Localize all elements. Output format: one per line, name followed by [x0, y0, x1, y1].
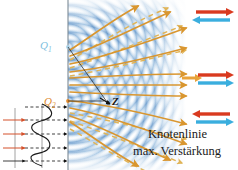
z-point — [106, 101, 109, 104]
label-q1: Q1 — [40, 40, 52, 54]
label-q2-text: Q — [44, 95, 52, 107]
legend-top-cyan-head — [192, 16, 200, 24]
label-max-verstaerkung: max. Verstärkung — [133, 145, 221, 158]
legend-bottom-cyan-head — [226, 118, 234, 126]
label-q1-text: Q — [40, 39, 48, 51]
legend-top-group — [192, 8, 234, 24]
legend-middle-group — [182, 71, 234, 87]
legend-bottom-red-head — [192, 110, 200, 118]
figure-canvas: Q1 Q2 Z Knotenlinie max. Verstärkung — [0, 0, 238, 170]
label-q1-subscript: 1 — [48, 45, 52, 54]
legend-middle-red-head — [226, 71, 234, 79]
legend-bottom-group — [192, 110, 234, 126]
ray-dashed-group — [25, 107, 67, 161]
sine-curve — [31, 104, 52, 166]
incoming-wave-plot — [3, 104, 67, 168]
legend-middle-cyan-head — [226, 79, 234, 87]
incoming-arrows-group — [3, 120, 25, 148]
label-z: Z — [112, 96, 119, 107]
label-q2: Q2 — [44, 96, 56, 110]
label-knotenlinie: Knotenlinie — [148, 128, 207, 141]
label-q2-subscript: 2 — [52, 101, 56, 110]
legend-top-red-head — [226, 8, 234, 16]
